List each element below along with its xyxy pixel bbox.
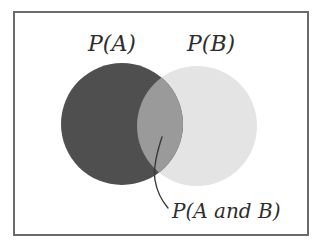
- set-a-label: P(A): [87, 31, 136, 56]
- set-b-label: P(B): [186, 31, 235, 56]
- venn-diagram: P(A) P(B) P(A and B): [0, 0, 323, 245]
- intersection-label: P(A and B): [171, 199, 281, 223]
